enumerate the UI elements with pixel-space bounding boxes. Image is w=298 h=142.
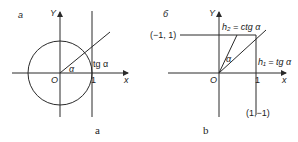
point-top-left: (−1, 1) [150, 30, 176, 40]
y-axis-label: Y [50, 8, 57, 18]
x-axis-label: x [281, 75, 287, 85]
one-label: 1 [255, 75, 260, 85]
tangent-label: tg α [93, 59, 108, 69]
y-axis-label: Y [209, 8, 216, 18]
angle-label: α [69, 64, 75, 74]
point-bottom-right: (1,−1) [246, 108, 270, 118]
caption-b: b [203, 124, 209, 136]
panel-tag: б [163, 9, 169, 19]
panel-a: a Y tg α O 1 x α a [12, 8, 129, 136]
h1-label: h₁ = tg α [258, 57, 292, 67]
origin-label: O [210, 75, 217, 85]
panel-tag: a [18, 10, 23, 20]
one-label: 1 [91, 75, 96, 85]
origin-label: O [51, 75, 58, 85]
panel-b: б Y (−1, 1) h₂ = ctg α h₁ = tg α α O 1 x… [150, 8, 292, 136]
x-axis-label: x [123, 75, 129, 85]
trig-diagram: a Y tg α O 1 x α a б Y (−1, 1) h₂ = ctg … [0, 0, 298, 142]
h2-label: h₂ = ctg α [222, 22, 261, 32]
caption-a: a [95, 124, 100, 136]
angle-label: α [226, 54, 232, 64]
